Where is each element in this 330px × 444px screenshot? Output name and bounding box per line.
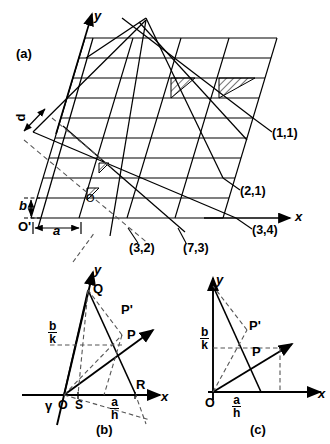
d-spacing-label: d [13, 114, 28, 122]
panel-a-y-axis [56, 14, 92, 134]
panel-b-intercept-b-over-k: b k [48, 320, 57, 346]
panel-b-point-Q: Q [93, 281, 103, 296]
plane-label-1-1: (1,1) [272, 126, 298, 140]
origin-inner-label: O [86, 192, 95, 204]
panel-b-y-axis-label: y [94, 262, 101, 277]
panel-c-trace [213, 286, 261, 392]
panel-c-origin: O [205, 396, 215, 410]
figure-canvas [0, 0, 330, 444]
plane-label-3-4: (3,4) [252, 223, 278, 237]
panel-c-x-axis-label: x [318, 386, 325, 401]
panel-c-label: (c) [250, 422, 266, 437]
plane-traces [33, 18, 253, 236]
panel-a-x-axis-label: x [295, 209, 302, 224]
panel-b-label: (b) [96, 422, 113, 437]
panel-b-point-S: S [75, 398, 83, 412]
panel-a-label: (a) [16, 46, 32, 61]
panel-c-geometry [208, 278, 320, 400]
panel-b-origin: O [58, 398, 68, 412]
panel-c-h-denominator: h [232, 407, 241, 419]
panel-b-point-R: R [136, 377, 145, 392]
cell-b-label: b [19, 198, 27, 213]
panel-c-construction-dashed [213, 286, 280, 392]
panel-a-lattice [24, 14, 290, 245]
panel-b-x-axis-label: x [161, 389, 168, 404]
panel-b-k-denominator: k [48, 333, 57, 345]
origin-prime-label: O' [18, 219, 31, 234]
panel-b-gamma-angle: γ [45, 398, 52, 413]
cell-a-label: a [53, 223, 60, 238]
panel-a-y-axis-label: y [94, 8, 101, 23]
panel-b-point-P: P [127, 327, 136, 342]
panel-b-geometry [22, 232, 160, 425]
panel-c-point-P-prime: P' [249, 318, 261, 333]
panel-c-intercept-b-over-k: b k [200, 326, 209, 352]
panel-c-intercept-a-over-h: a h [232, 394, 241, 420]
label-leaders [128, 118, 272, 243]
offset-plane-dashed [24, 118, 150, 245]
panel-c-k-denominator: k [200, 339, 209, 351]
plane-label-7-3: (7,3) [183, 241, 209, 255]
panel-c-y-axis-label: y [216, 272, 223, 287]
panel-b-intercept-a-over-h: a h [110, 396, 119, 422]
hatched-cells [87, 78, 255, 200]
panel-b-h-denominator: h [110, 409, 119, 421]
panel-c-point-P: P [252, 344, 261, 359]
plane-label-3-2: (3,2) [129, 241, 155, 255]
plane-label-2-1: (2,1) [240, 184, 266, 198]
panel-b-point-P-prime: P' [121, 302, 133, 317]
